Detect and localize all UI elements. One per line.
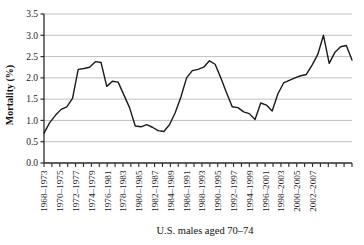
x-axis-title: U.S. males aged 70–74 — [156, 225, 254, 236]
x-axis-tick-label: 1974–1979 — [87, 170, 97, 212]
y-axis-title: Mortality (%) — [4, 65, 16, 125]
y-axis-tick-label: 2.0 — [26, 73, 38, 83]
y-axis-tick-label: 0.5 — [26, 137, 38, 147]
x-axis-tick-label: 1980–1985 — [134, 170, 144, 212]
y-axis-tick-label: 1.0 — [26, 116, 38, 126]
x-axis-tick-label: 1970–1975 — [55, 170, 65, 212]
x-axis-tick-label: 1968–1973 — [39, 170, 49, 212]
x-axis-tick-label: 1998–2003 — [276, 170, 286, 212]
x-axis-tick-label: 2002–2007 — [308, 170, 318, 212]
x-axis-tick-label: 1982–1987 — [150, 170, 160, 212]
y-axis-tick-label: 2.5 — [26, 52, 38, 62]
x-axis-tick-label: 1990–1995 — [213, 170, 223, 212]
x-axis-tick-label: 1976–1981 — [103, 170, 113, 212]
y-axis-tick-label: 0.0 — [26, 158, 38, 168]
x-axis-tick-label: 1986–1991 — [182, 170, 192, 212]
x-axis-tick-label: 1984–1989 — [166, 170, 176, 212]
chart-container: 0.00.51.01.52.02.53.03.5 1968–19731970–1… — [0, 0, 364, 245]
mortality-line-chart: 0.00.51.01.52.02.53.03.5 1968–19731970–1… — [0, 0, 364, 245]
x-axis-tick-label: 1996–2001 — [261, 170, 271, 212]
y-axis-tick-label: 1.5 — [26, 94, 38, 104]
x-axis-tick-label: 2000–2005 — [292, 170, 302, 212]
x-axis-tick-label: 1994–1999 — [245, 170, 255, 212]
y-axis-tick-label: 3.5 — [26, 9, 38, 19]
x-axis-tick-label: 1992–1997 — [229, 170, 239, 212]
x-axis-tick-label: 1988–1993 — [197, 170, 207, 212]
y-axis-tick-label: 3.0 — [26, 31, 38, 41]
x-axis-tick-label: 1972–1977 — [71, 170, 81, 212]
x-axis-tick-label: 1978–1983 — [118, 170, 128, 212]
